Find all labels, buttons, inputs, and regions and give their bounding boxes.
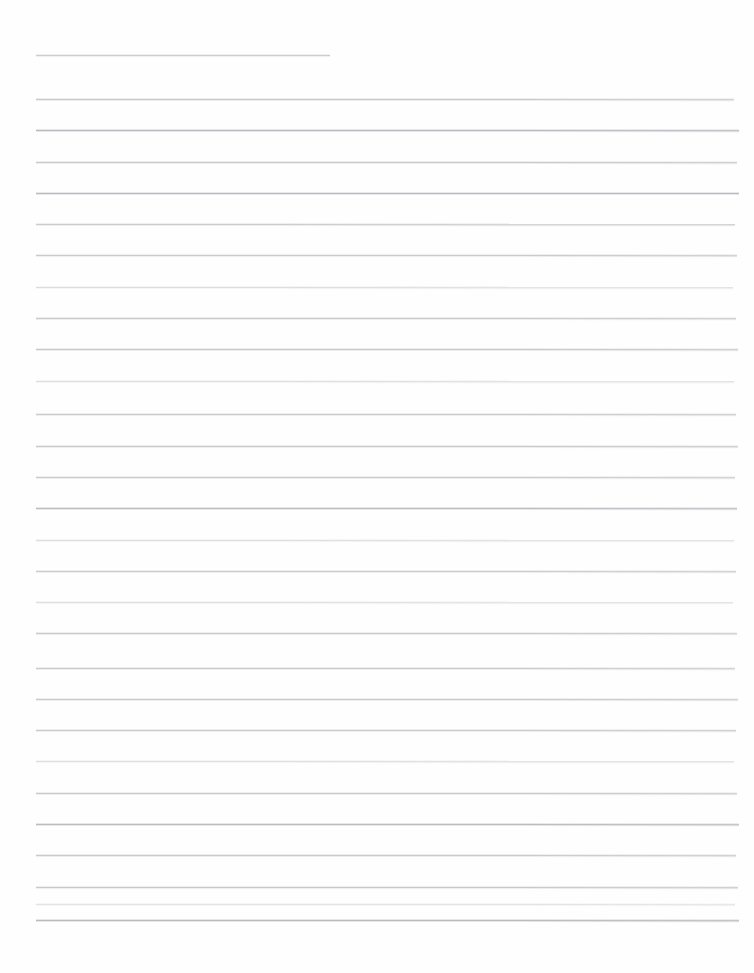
ruled-line: [36, 255, 737, 256]
ruled-line: [36, 904, 735, 905]
paper-texture: [0, 0, 754, 973]
ruled-line: [36, 761, 734, 762]
ruled-line: [36, 668, 735, 669]
ruled-line: [36, 162, 737, 163]
ruled-line: [36, 193, 739, 194]
ruled-line: [36, 633, 737, 634]
ruled-line: [36, 130, 739, 131]
scanned-page: [0, 0, 754, 973]
ruled-line: [36, 381, 734, 382]
ruled-line: [36, 349, 738, 350]
ruled-line: [36, 318, 736, 319]
ruled-line: [36, 99, 734, 100]
ruled-line: [36, 414, 736, 415]
ruled-line: [36, 602, 733, 603]
ruled-line: [36, 477, 735, 478]
ruled-line: [36, 55, 330, 56]
ruled-line: [36, 508, 737, 509]
ruled-line: [36, 446, 738, 447]
ruled-line: [36, 730, 736, 731]
ruled-line: [36, 920, 739, 921]
ruled-line: [36, 793, 737, 794]
ruled-line: [36, 699, 738, 700]
ruled-line: [36, 571, 736, 572]
ruled-line: [36, 855, 736, 856]
ruled-line: [36, 887, 738, 888]
ruled-line: [36, 824, 739, 825]
ruled-line: [36, 540, 734, 541]
ruled-line: [36, 287, 733, 288]
ruled-line: [36, 224, 735, 225]
